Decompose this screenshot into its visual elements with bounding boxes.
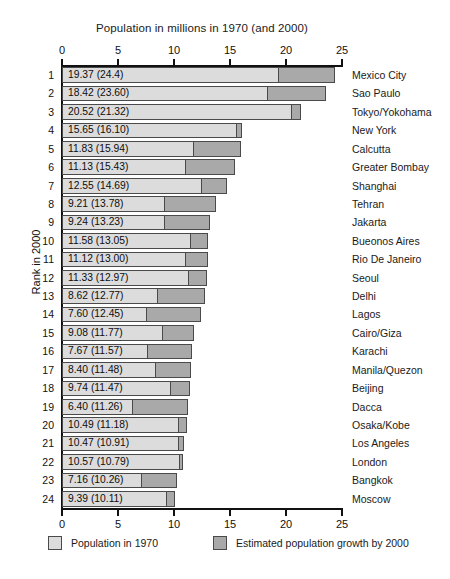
city-label: Beijing — [352, 379, 384, 397]
x-tick-label-top-10: 10 — [168, 44, 180, 56]
x-tick-label-bottom-10: 10 — [168, 518, 180, 530]
x-tick-label-top-20: 20 — [280, 44, 292, 56]
x-tick-label-top-5: 5 — [115, 44, 121, 56]
rank-label: 16 — [20, 342, 54, 360]
bar-row: 249.39 (10.11)Moscow — [0, 490, 450, 508]
rank-label: 4 — [20, 121, 54, 139]
bar-segment-growth — [278, 67, 336, 83]
bar-segment-growth — [170, 381, 191, 397]
rank-label: 7 — [20, 177, 54, 195]
city-label: Seoul — [352, 269, 379, 287]
x-tick-top-5 — [117, 59, 118, 65]
bar-row: 89.21 (13.78)Tehran — [0, 195, 450, 213]
bar-segment-1970 — [62, 491, 167, 507]
population-bar-chart: Population in millions in 1970 (and 2000… — [0, 0, 450, 579]
bar-row: 1111.12 (13.00)Rio De Janeiro — [0, 250, 450, 268]
rank-label: 8 — [20, 195, 54, 213]
bar-segment-1970 — [62, 454, 180, 470]
rank-label: 2 — [20, 84, 54, 102]
rank-label: 15 — [20, 324, 54, 342]
bar-segment-growth — [185, 252, 207, 268]
bar-segment-growth — [162, 325, 193, 341]
bar-segment-1970 — [62, 399, 134, 415]
x-tick-bottom-20 — [285, 510, 286, 516]
bar-segment-1970 — [62, 325, 164, 341]
x-tick-top-0 — [61, 59, 62, 65]
rank-label: 14 — [20, 305, 54, 323]
bar-segment-1970 — [62, 307, 147, 323]
city-label: Manila/Quezon — [352, 361, 423, 379]
bar-segment-1970 — [62, 196, 165, 212]
bar-segment-growth — [155, 362, 191, 378]
city-label: Tehran — [352, 195, 384, 213]
city-label: Bueonos Aires — [352, 232, 420, 250]
x-tick-top-10 — [173, 59, 174, 65]
legend-swatch-icon-growth — [213, 536, 227, 550]
x-tick-label-top-25: 25 — [336, 44, 348, 56]
bar-segment-growth — [141, 473, 177, 489]
x-tick-label-top-15: 15 — [224, 44, 236, 56]
bar-segment-1970 — [62, 362, 156, 378]
bar-segment-1970 — [62, 233, 192, 249]
city-label: Rio De Janeiro — [352, 250, 421, 268]
bar-row: 167.67 (11.57)Karachi — [0, 342, 450, 360]
city-label: Mexico City — [352, 66, 406, 84]
bar-row: 511.83 (15.94)Calcutta — [0, 140, 450, 158]
rank-label: 17 — [20, 361, 54, 379]
bar-segment-growth — [179, 454, 183, 470]
city-label: Osaka/Kobe — [352, 416, 410, 434]
city-label: Moscow — [352, 490, 391, 508]
bar-segment-1970 — [62, 436, 179, 452]
city-label: Dacca — [352, 398, 382, 416]
city-label: Karachi — [352, 342, 388, 360]
bar-row: 159.08 (11.77)Cairo/Giza — [0, 324, 450, 342]
bar-row: 1011.58 (13.05)Bueonos Aires — [0, 232, 450, 250]
bar-segment-1970 — [62, 141, 194, 157]
bar-segment-1970 — [62, 159, 187, 175]
bar-segment-growth — [166, 491, 175, 507]
bar-segment-1970 — [62, 288, 159, 304]
bar-segment-growth — [132, 399, 188, 415]
bar-segment-growth — [185, 159, 234, 175]
x-tick-label-bottom-5: 5 — [115, 518, 121, 530]
bar-segment-1970 — [62, 123, 237, 139]
x-tick-bottom-0 — [61, 510, 62, 516]
bar-segment-growth — [267, 86, 326, 102]
bar-row: 320.52 (21.32)Tokyo/Yokohama — [0, 103, 450, 121]
bar-row: 2010.49 (11.18)Osaka/Kobe — [0, 416, 450, 434]
bar-segment-1970 — [62, 178, 203, 194]
x-tick-label-bottom-15: 15 — [224, 518, 236, 530]
chart-legend: Population in 1970 Estimated population … — [0, 532, 450, 556]
x-tick-bottom-25 — [341, 510, 342, 516]
rank-label: 11 — [20, 250, 54, 268]
city-label: Jakarta — [352, 213, 386, 231]
city-label: Shanghai — [352, 177, 396, 195]
bar-row: 189.74 (11.47)Beijing — [0, 379, 450, 397]
city-label: Calcutta — [352, 140, 391, 158]
x-tick-top-20 — [285, 59, 286, 65]
bar-segment-growth — [236, 123, 242, 139]
rank-label: 22 — [20, 453, 54, 471]
city-label: Lagos — [352, 305, 381, 323]
rank-label: 9 — [20, 213, 54, 231]
x-tick-bottom-15 — [229, 510, 230, 516]
city-label: Cairo/Giza — [352, 324, 402, 342]
bar-segment-1970 — [62, 104, 292, 120]
bar-row: 99.24 (13.23)Jakarta — [0, 213, 450, 231]
bar-segment-1970 — [62, 417, 179, 433]
rank-label: 23 — [20, 471, 54, 489]
bar-segment-growth — [178, 417, 187, 433]
axis-line-bottom — [62, 508, 343, 510]
rank-label: 10 — [20, 232, 54, 250]
rank-label: 13 — [20, 287, 54, 305]
legend-label-1970: Population in 1970 — [71, 537, 158, 549]
bar-row: 196.40 (11.26)Dacca — [0, 398, 450, 416]
rank-label: 12 — [20, 269, 54, 287]
bar-row: 1211.33 (12.97)Seoul — [0, 269, 450, 287]
rank-label: 6 — [20, 158, 54, 176]
bar-row: 119.37 (24.4)Mexico City — [0, 66, 450, 84]
city-label: New York — [352, 121, 396, 139]
rank-label: 5 — [20, 140, 54, 158]
bar-row: 611.13 (15.43)Greater Bombay — [0, 158, 450, 176]
rank-label: 19 — [20, 398, 54, 416]
